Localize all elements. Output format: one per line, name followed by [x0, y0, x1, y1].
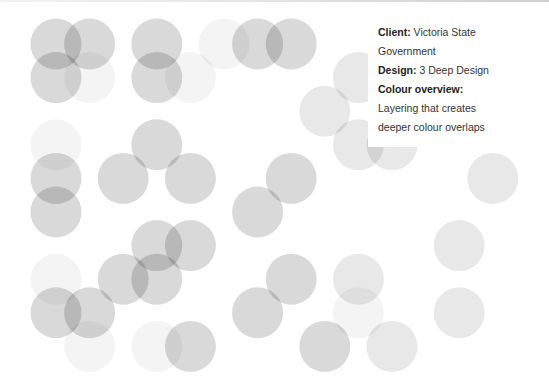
circle-38: [299, 321, 350, 372]
circle-23: [434, 220, 485, 271]
design-line: Design: 3 Deep Design: [378, 61, 508, 80]
circle-16: [31, 187, 82, 238]
circle-33: [165, 321, 216, 372]
overview-label: Colour overview:: [378, 83, 463, 95]
circle-22: [467, 153, 518, 204]
circle-19: [165, 153, 216, 204]
circle-9: [266, 19, 317, 70]
overview-line: Colour overview:: [378, 80, 508, 99]
design-value: 3 Deep Design: [419, 64, 488, 76]
circle-40: [434, 287, 485, 338]
overview-value: Layering that creates deeper colour over…: [378, 99, 508, 137]
client-line: Client: Victoria State Government: [378, 23, 508, 61]
circle-39: [367, 321, 418, 372]
circle-21: [232, 187, 283, 238]
client-label: Client:: [378, 26, 411, 38]
circle-31: [64, 321, 115, 372]
circle-3: [64, 52, 115, 103]
circle-27: [131, 254, 182, 305]
design-label: Design:: [378, 64, 417, 76]
project-caption: Client: Victoria State Government Design…: [368, 19, 508, 147]
circle-35: [232, 287, 283, 338]
